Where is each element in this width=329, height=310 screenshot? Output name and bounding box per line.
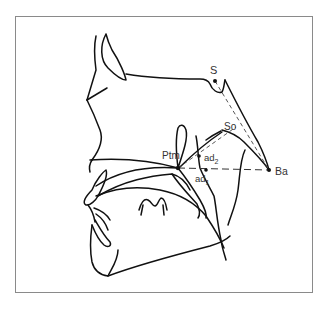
point-s bbox=[213, 79, 217, 83]
point-ba bbox=[267, 168, 271, 172]
point-ad1 bbox=[204, 168, 208, 172]
label-ad2: ad2 bbox=[204, 152, 219, 165]
ptm-ba-line bbox=[178, 168, 269, 170]
maxilla-palate bbox=[90, 125, 245, 260]
cephalometric-diagram: S So Ptm Ba ad2 ad1 bbox=[0, 0, 329, 310]
label-s: S bbox=[210, 64, 217, 76]
mandible bbox=[91, 188, 231, 276]
teeth bbox=[84, 170, 167, 246]
label-ad1: ad1 bbox=[195, 173, 210, 186]
label-ba: Ba bbox=[275, 165, 288, 177]
label-so: So bbox=[224, 121, 237, 132]
point-ad2 bbox=[197, 154, 201, 158]
point-ptm bbox=[176, 166, 180, 170]
label-ptm: Ptm bbox=[162, 150, 180, 161]
